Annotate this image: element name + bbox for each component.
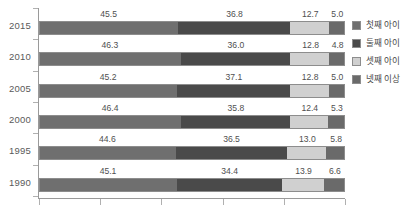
data-label: 36.8: [226, 9, 243, 19]
data-label: 46.4: [102, 103, 119, 113]
bar-segment[interactable]: [329, 85, 344, 97]
stacked-bar[interactable]: [39, 178, 345, 192]
legend-swatch-icon: [352, 39, 361, 48]
bar-segment[interactable]: [177, 179, 282, 191]
bar-row: 200046.435.812.45.3: [0, 102, 348, 132]
x-axis-tick: [39, 199, 40, 205]
bar-segment[interactable]: [282, 179, 324, 191]
bar-row: 200545.237.112.85.0: [0, 71, 348, 101]
legend-label: 둘째 아이: [366, 38, 400, 48]
stacked-bar[interactable]: [39, 84, 345, 98]
legend-label: 넷째 이상: [366, 74, 400, 84]
y-axis-label: 2000: [0, 114, 31, 125]
bar-segment[interactable]: [40, 147, 176, 159]
bar-row: 201545.536.812.75.0: [0, 8, 348, 38]
data-label: 36.5: [223, 134, 240, 144]
legend-label: 셋째 아이: [366, 56, 400, 66]
data-label: 5.3: [331, 103, 343, 113]
stacked-bar[interactable]: [39, 52, 345, 66]
bar-segment[interactable]: [328, 116, 344, 128]
data-label: 34.4: [221, 166, 238, 176]
data-label: 13.9: [295, 166, 312, 176]
data-label: 36.0: [228, 40, 245, 50]
bar-segment[interactable]: [40, 116, 181, 128]
legend-swatch-icon: [352, 57, 361, 66]
x-axis-tick: [100, 199, 101, 205]
data-label: 5.0: [331, 9, 343, 19]
legend-swatch-icon: [352, 75, 361, 84]
data-label: 45.1: [100, 166, 117, 176]
bar-segment[interactable]: [40, 179, 177, 191]
bar-segment[interactable]: [290, 53, 329, 65]
y-axis-tick: [33, 196, 38, 197]
legend-swatch-icon: [352, 21, 361, 30]
x-axis-tick: [223, 199, 224, 205]
bar-segment[interactable]: [324, 179, 344, 191]
legend-label: 첫째 아이: [366, 20, 400, 30]
bar-segment[interactable]: [290, 116, 328, 128]
x-axis-tick: [284, 199, 285, 205]
bar-row: 199045.134.413.96.6: [0, 165, 348, 195]
bar-segment[interactable]: [181, 53, 291, 65]
bar-segment[interactable]: [329, 53, 344, 65]
legend-item[interactable]: 셋째 아이: [352, 52, 416, 70]
bar-row: 199544.636.513.05.8: [0, 133, 348, 163]
bar-segment[interactable]: [176, 147, 287, 159]
legend-item[interactable]: 첫째 아이: [352, 16, 416, 34]
x-axis-tick: [345, 199, 346, 205]
bar-row: 201046.336.012.84.8: [0, 39, 348, 69]
data-label: 6.6: [329, 166, 341, 176]
data-label: 5.8: [330, 134, 342, 144]
data-label: 44.6: [99, 134, 116, 144]
bar-segment[interactable]: [290, 22, 329, 34]
x-axis-tick: [161, 199, 162, 205]
stacked-bar[interactable]: [39, 115, 345, 129]
data-label: 45.2: [100, 72, 117, 82]
data-label: 5.0: [331, 72, 343, 82]
stacked-bar[interactable]: [39, 21, 345, 35]
data-label: 12.7: [302, 9, 319, 19]
data-label: 12.8: [302, 72, 319, 82]
legend-item[interactable]: 넷째 이상: [352, 70, 416, 88]
legend-item[interactable]: 둘째 아이: [352, 34, 416, 52]
data-label: 37.1: [226, 72, 243, 82]
y-axis-label: 2010: [0, 51, 31, 62]
data-label: 12.8: [302, 40, 319, 50]
bar-segment[interactable]: [181, 116, 290, 128]
y-axis-label: 2005: [0, 83, 31, 94]
y-axis-label: 2015: [0, 20, 31, 31]
bar-segment[interactable]: [178, 22, 290, 34]
y-axis-label: 1990: [0, 177, 31, 188]
bar-segment[interactable]: [40, 22, 178, 34]
stacked-bar-chart: 201545.536.812.75.0201046.336.012.84.820…: [0, 0, 417, 218]
data-label: 12.4: [301, 103, 318, 113]
data-label: 35.8: [228, 103, 245, 113]
bar-segment[interactable]: [40, 53, 181, 65]
data-label: 4.8: [332, 40, 344, 50]
chart-legend: 첫째 아이둘째 아이셋째 아이넷째 이상: [352, 16, 416, 88]
bar-segment[interactable]: [290, 85, 329, 97]
data-label: 13.0: [299, 134, 316, 144]
bar-segment[interactable]: [40, 85, 177, 97]
bar-segment[interactable]: [287, 147, 327, 159]
data-label: 46.3: [102, 40, 119, 50]
stacked-bar[interactable]: [39, 146, 345, 160]
data-label: 45.5: [100, 9, 117, 19]
bar-segment[interactable]: [329, 22, 344, 34]
bar-segment[interactable]: [177, 85, 290, 97]
plot-area: 201545.536.812.75.0201046.336.012.84.820…: [0, 0, 348, 218]
bar-segment[interactable]: [326, 147, 344, 159]
x-axis-line: [38, 198, 345, 199]
y-axis-label: 1995: [0, 145, 31, 156]
